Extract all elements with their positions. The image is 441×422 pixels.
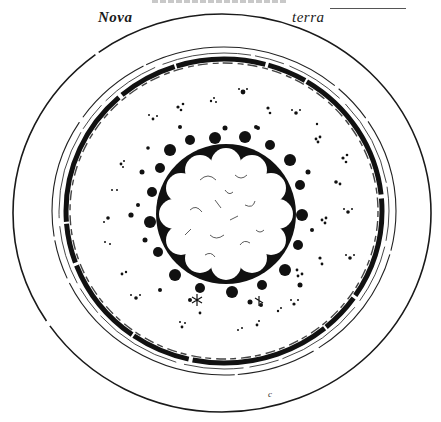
engraving-figure: Nova terra (0, 0, 441, 422)
circular-diagram: c (0, 0, 441, 422)
label-nova: Nova (98, 9, 133, 26)
bottom-mark: c (268, 389, 272, 399)
cropped-header-text (152, 0, 287, 3)
top-rule-line (330, 8, 406, 9)
label-terra: terra (292, 9, 325, 26)
